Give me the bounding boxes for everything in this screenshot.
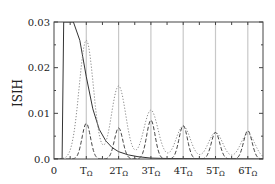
period-gridlines xyxy=(86,22,248,159)
series-dotted xyxy=(54,40,264,159)
x-axis-ticks: 0TΩ2TΩ3TΩ4TΩ5TΩ6TΩ xyxy=(51,22,258,178)
x-tick-label: 6TΩ xyxy=(238,165,257,178)
x-tick-label: 0 xyxy=(51,165,57,176)
y-tick-label: 0.0 xyxy=(34,154,50,165)
data-series xyxy=(54,22,264,159)
y-axis-title: ISIH xyxy=(11,79,25,107)
x-tick-label: TΩ xyxy=(80,165,93,178)
x-tick-label: 5TΩ xyxy=(206,165,225,178)
x-tick-label: 2TΩ xyxy=(109,165,128,178)
y-tick-label: 0.02 xyxy=(28,62,50,73)
series-solid xyxy=(54,22,264,159)
x-tick-label: 4TΩ xyxy=(174,165,193,178)
y-tick-label: 0.03 xyxy=(28,17,50,28)
series-dashed xyxy=(54,120,264,159)
x-tick-label: 3TΩ xyxy=(141,165,160,178)
y-tick-label: 0.01 xyxy=(28,108,50,119)
isih-chart: 0.00.010.020.03 0TΩ2TΩ3TΩ4TΩ5TΩ6TΩ ISIH xyxy=(0,0,275,184)
